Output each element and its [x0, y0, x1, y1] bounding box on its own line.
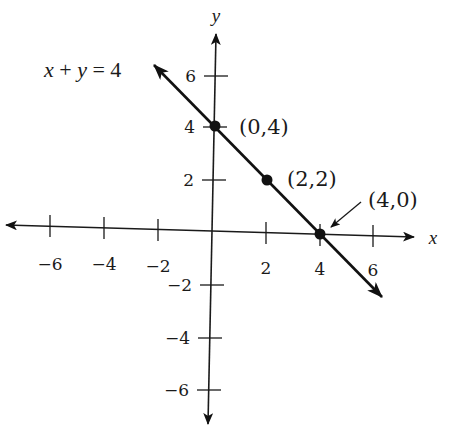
y-axis: [208, 34, 216, 424]
y-axis-up-arrow-icon: [212, 34, 216, 231]
x-tick-label: 2: [261, 258, 272, 278]
x-tick-labels: −6 −4 −2 2 4 6: [37, 254, 378, 280]
pointer-arrow-icon: [331, 202, 361, 227]
y-axis-down-arrow-icon: [208, 231, 212, 424]
point-4-0: [315, 229, 326, 240]
y-tick-label: −2: [167, 275, 192, 295]
x-tick-label: 6: [368, 260, 379, 280]
y-tick-label: 2: [183, 170, 194, 190]
x-axis-label: x: [428, 227, 438, 248]
y-tick-label: 6: [185, 66, 196, 86]
y-tick-label: −6: [164, 380, 189, 400]
x-axis: [6, 225, 414, 237]
graph-figure: −6 −4 −2 2 4 6 6 4 2 −2 −4 −6 y x x + y …: [0, 0, 453, 428]
x-tick-label: −4: [91, 254, 116, 274]
coordinate-plane: −6 −4 −2 2 4 6 6 4 2 −2 −4 −6 y x x + y …: [0, 0, 453, 428]
x-axis-left-arrow-icon: [6, 225, 212, 231]
x-tick-label: 4: [315, 259, 326, 279]
point-label: (0,4): [239, 115, 289, 139]
y-tick-labels: 6 4 2 −2 −4 −6: [164, 66, 196, 400]
point-label: (4,0): [368, 188, 418, 212]
x-axis-right-arrow-icon: [212, 231, 414, 237]
x-tick-label: −6: [37, 254, 62, 274]
y-tick-label: −4: [165, 328, 190, 348]
line-down-right-arrow-icon: [267, 180, 382, 297]
point-2-2: [262, 175, 273, 186]
equation-label: x + y = 4: [43, 57, 121, 82]
y-axis-label: y: [210, 5, 221, 26]
x-tick-label: −2: [145, 256, 170, 276]
point-label: (2,2): [287, 167, 337, 191]
point-0-4: [210, 121, 221, 132]
y-tick-label: 4: [184, 117, 195, 137]
